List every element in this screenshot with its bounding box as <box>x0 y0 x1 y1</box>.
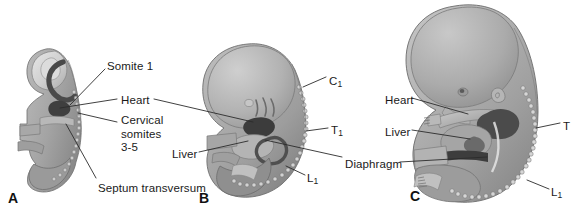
label-heart-panel-c: Heart <box>385 94 414 108</box>
label-l1-panel-c: L1 <box>551 186 562 203</box>
panel-letter-c: C <box>410 188 420 204</box>
label-heart-panel-a: Heart <box>121 94 150 108</box>
panel-letter-a: A <box>8 190 18 206</box>
label-diaphragm-panel-c: Diaphragm <box>345 158 402 172</box>
label-t1-subscript: 1 <box>338 128 343 138</box>
label-l1-panel-b: L1 <box>307 172 318 189</box>
anatomical-figure: Somite 1 Heart Cervical somites 3-5 Sept… <box>0 0 581 214</box>
leader-t1-b <box>306 128 328 131</box>
leader-t-c <box>536 123 560 128</box>
panel-b-artwork <box>203 44 308 197</box>
panel-a-artwork <box>18 49 81 192</box>
leader-l1-c <box>527 180 549 189</box>
label-t-panel-c: T <box>563 120 570 134</box>
label-cervical-somites: Cervical somites 3-5 <box>121 114 163 155</box>
panel-c-artwork <box>406 5 538 202</box>
leader-c1-b <box>303 77 326 87</box>
label-liver-panel-c: Liver <box>385 126 410 140</box>
figure-artwork <box>0 0 581 214</box>
panel-letter-b: B <box>199 190 209 206</box>
label-liver-panel-b: Liver <box>172 148 197 162</box>
label-c1-subscript: 1 <box>337 79 342 89</box>
label-l1-subscript: 1 <box>314 176 319 186</box>
label-t1-panel-b: T1 <box>331 124 343 141</box>
label-c1-panel-b: C1 <box>329 75 342 92</box>
leader-cervical-somites <box>78 113 117 122</box>
label-somite-1: Somite 1 <box>107 60 153 74</box>
label-l1-panel-c-subscript: 1 <box>558 190 563 200</box>
label-septum-transversum: Septum transversum <box>98 182 206 196</box>
